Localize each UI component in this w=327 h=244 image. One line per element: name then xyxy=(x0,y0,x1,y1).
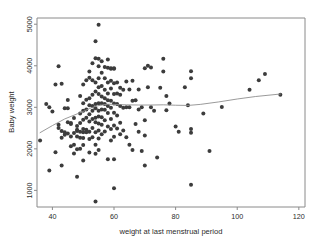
data-point xyxy=(152,109,156,113)
data-point xyxy=(94,200,98,204)
data-point xyxy=(78,147,82,151)
data-point xyxy=(81,158,85,162)
data-point xyxy=(109,139,113,143)
data-point xyxy=(161,57,165,61)
data-point xyxy=(69,134,73,138)
data-point xyxy=(140,105,144,109)
y-tick-label: 3000 xyxy=(25,99,34,115)
data-point xyxy=(106,92,110,96)
data-point xyxy=(100,84,104,88)
data-point xyxy=(208,149,212,153)
data-point xyxy=(47,105,51,109)
data-point xyxy=(78,94,82,98)
data-point xyxy=(72,143,76,147)
data-point xyxy=(137,87,141,91)
data-point xyxy=(94,152,98,156)
data-point xyxy=(189,76,193,80)
data-point xyxy=(146,85,150,89)
data-point xyxy=(90,109,94,113)
data-point xyxy=(103,76,107,80)
data-point xyxy=(66,106,70,110)
data-point xyxy=(118,132,122,136)
data-point xyxy=(112,135,116,139)
data-point xyxy=(263,72,267,76)
data-point xyxy=(44,102,48,106)
data-point xyxy=(109,79,113,83)
data-point xyxy=(137,130,141,134)
data-point xyxy=(155,156,159,160)
data-point xyxy=(143,118,147,122)
data-point xyxy=(115,114,119,118)
data-point xyxy=(81,101,85,105)
data-point xyxy=(38,139,42,143)
data-point xyxy=(189,127,193,131)
data-point xyxy=(60,163,64,167)
data-point xyxy=(84,78,88,82)
data-point xyxy=(60,136,64,140)
data-point xyxy=(100,71,104,75)
data-point xyxy=(81,143,85,147)
data-point xyxy=(124,135,128,139)
data-point xyxy=(220,105,224,109)
data-point xyxy=(257,78,261,82)
data-point xyxy=(72,151,76,155)
data-point xyxy=(60,82,64,86)
data-point xyxy=(127,87,131,91)
data-point xyxy=(189,183,193,187)
data-point xyxy=(97,92,101,96)
data-point xyxy=(124,80,128,84)
data-point xyxy=(81,82,85,86)
x-tick-label: 120 xyxy=(293,212,305,221)
x-axis-title: weight at last menstrual period xyxy=(119,227,223,236)
data-point xyxy=(97,148,101,152)
data-point xyxy=(149,105,153,109)
data-point xyxy=(53,82,57,86)
data-point xyxy=(177,130,181,134)
data-point xyxy=(90,61,94,65)
y-tick-label: 1000 xyxy=(25,182,34,198)
data-point xyxy=(109,106,113,110)
data-point xyxy=(106,124,110,128)
data-point xyxy=(100,115,104,119)
data-point xyxy=(164,108,168,112)
data-point xyxy=(134,98,138,102)
data-point xyxy=(66,131,70,135)
data-point xyxy=(100,59,104,63)
data-point xyxy=(189,131,193,135)
data-point xyxy=(100,132,104,136)
data-point xyxy=(112,67,116,71)
data-point xyxy=(75,175,79,179)
data-point xyxy=(75,124,79,128)
data-point xyxy=(158,86,162,90)
data-point xyxy=(94,143,98,147)
data-point xyxy=(97,76,101,80)
data-point xyxy=(121,129,125,133)
data-point xyxy=(143,134,147,138)
data-point xyxy=(164,94,168,98)
data-point xyxy=(106,157,110,161)
data-point xyxy=(87,119,91,123)
data-point xyxy=(87,70,91,74)
y-tick-label: 5000 xyxy=(25,16,34,32)
data-point xyxy=(130,148,134,152)
data-point xyxy=(87,76,91,80)
data-point xyxy=(84,116,88,120)
data-point xyxy=(87,96,91,100)
data-point xyxy=(103,108,107,112)
data-point xyxy=(97,136,101,140)
data-point xyxy=(161,70,165,74)
data-point xyxy=(103,88,107,92)
data-point xyxy=(174,124,178,128)
data-point xyxy=(112,157,116,161)
data-point xyxy=(143,66,147,70)
data-point xyxy=(121,88,125,92)
x-tick-label: 40 xyxy=(48,212,56,221)
data-point xyxy=(143,163,147,167)
x-tick-label: 80 xyxy=(172,212,180,221)
data-point xyxy=(103,129,107,133)
data-point xyxy=(112,111,116,115)
data-point xyxy=(97,23,101,27)
data-point xyxy=(90,93,94,97)
data-point xyxy=(47,168,51,172)
data-point xyxy=(115,80,119,84)
